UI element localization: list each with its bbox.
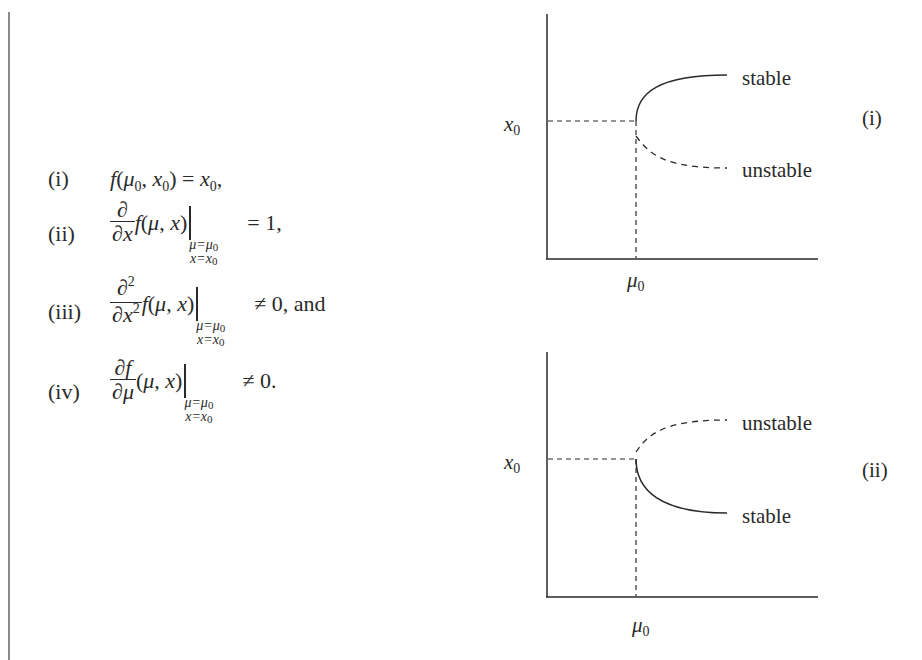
lower-branch-label: stable bbox=[742, 504, 791, 529]
diagram-ii-plot bbox=[0, 330, 922, 660]
x-axis-label: μ0 bbox=[627, 268, 645, 293]
diagram-tag: (i) bbox=[862, 106, 882, 131]
upper-branch-label: unstable bbox=[742, 411, 812, 436]
x-axis-label: μ0 bbox=[632, 613, 650, 638]
y-axis-label: x0 bbox=[504, 450, 520, 475]
unstable-branch bbox=[636, 136, 727, 168]
upper-branch-label: stable bbox=[742, 66, 791, 91]
stable-branch bbox=[636, 75, 727, 121]
lower-branch-label: unstable bbox=[742, 158, 812, 183]
unstable-branch bbox=[636, 420, 727, 452]
y-axis-label: x0 bbox=[504, 112, 520, 137]
stable-branch bbox=[636, 459, 727, 513]
diagram-tag: (ii) bbox=[862, 458, 888, 483]
